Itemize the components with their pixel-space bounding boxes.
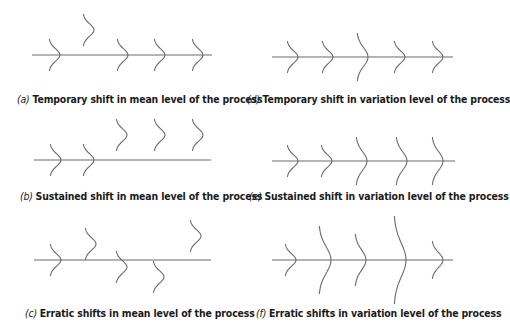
caption-text: Temporary shift in mean level of the pro… [32,94,262,105]
distribution-curve [153,261,164,293]
panel-a [32,14,212,71]
panel-e [272,137,455,185]
panel-c [34,220,211,293]
caption-text: Sustained shift in variation level of th… [264,191,508,202]
caption-a: (a)Temporary shift in mean level of the … [17,94,262,105]
distribution-curve [116,119,127,151]
distribution-curve [192,119,203,151]
caption-c: (c)Erratic shifts in mean level of the p… [25,308,255,319]
caption-text: Temporary shift in variation level of th… [263,94,510,105]
caption-e: (e)Sustained shift in variation level of… [249,191,509,202]
distribution-curve [154,119,165,151]
caption-label: (d) [247,94,260,105]
caption-label: (a) [17,94,30,105]
caption-b: (b)Sustained shift in mean level of the … [20,191,262,202]
caption-f: (f)Erratic shifts in variation level of … [256,308,501,319]
caption-d: (d)Temporary shift in variation level of… [247,94,510,105]
distribution-curve [116,251,127,283]
caption-label: (b) [20,191,33,202]
distribution-curve [190,220,201,252]
panel-f [272,216,453,304]
caption-text: Sustained shift in mean level of the pro… [36,191,263,202]
caption-text: Erratic shifts in mean level of the proc… [40,308,255,319]
caption-text: Erratic shifts in variation level of the… [269,308,501,319]
caption-label: (f) [256,308,266,319]
distribution-curve [83,14,94,46]
caption-label: (e) [249,191,262,202]
caption-label: (c) [25,308,37,319]
distribution-curve [85,228,96,260]
panel-d [272,33,453,81]
panel-b [34,119,211,176]
